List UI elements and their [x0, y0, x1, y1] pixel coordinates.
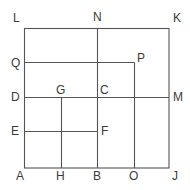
label-A: A: [16, 169, 24, 183]
label-N: N: [93, 10, 102, 24]
label-G: G: [56, 83, 65, 97]
label-P: P: [137, 51, 145, 65]
label-F: F: [101, 124, 108, 138]
label-K: K: [173, 11, 181, 25]
label-H: H: [56, 169, 65, 183]
outer-square-ALKJ: [25, 29, 170, 169]
label-O: O: [129, 169, 138, 183]
label-E: E: [11, 124, 19, 138]
label-B: B: [93, 169, 101, 183]
label-Q: Q: [11, 56, 20, 70]
label-L: L: [13, 11, 20, 25]
label-J: J: [172, 169, 178, 183]
label-C: C: [100, 83, 109, 97]
geometry-diagram: L N K Q P D G C M E F A H B O J: [0, 0, 190, 190]
label-M: M: [173, 90, 183, 104]
label-D: D: [11, 90, 20, 104]
